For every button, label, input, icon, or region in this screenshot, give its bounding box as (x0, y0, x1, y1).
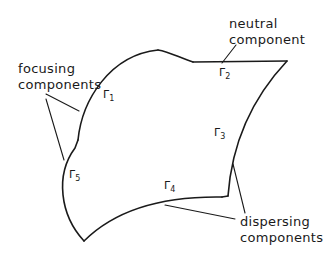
neutral-line1: neutral (229, 16, 305, 32)
dispersing-line2: components (240, 230, 323, 246)
gamma2-neutral-line (193, 61, 287, 62)
gamma5-focusing-curve (63, 140, 84, 241)
leader-dispersing-2 (165, 205, 235, 219)
gamma3-label: Γ3 (214, 126, 225, 139)
focusing-annotation: focusing components (18, 61, 101, 93)
focusing-line1: focusing (18, 61, 101, 77)
leader-focusing-1 (46, 94, 79, 111)
gamma1-label: Γ1 (103, 88, 114, 101)
gamma2-label: Γ2 (219, 66, 230, 79)
dispersing-line1: dispersing (240, 214, 323, 230)
leader-focusing-2 (46, 99, 64, 160)
dispersing-annotation: dispersing components (240, 214, 323, 246)
billiard-boundary-diagram: focusing components neutral component di… (0, 0, 330, 260)
leader-dispersing-1 (233, 164, 245, 213)
gamma4-dispersing-curve (84, 197, 222, 241)
gamma4-label: Γ4 (164, 179, 175, 192)
gamma5-label: Γ5 (69, 168, 80, 181)
focusing-line2: components (18, 77, 101, 93)
gamma3-dispersing-curve (228, 61, 287, 196)
neutral-line2: component (229, 32, 305, 48)
gamma3-gamma4-corner (222, 196, 228, 197)
gamma1-to-gamma2-transition (158, 50, 193, 62)
neutral-annotation: neutral component (229, 16, 305, 48)
